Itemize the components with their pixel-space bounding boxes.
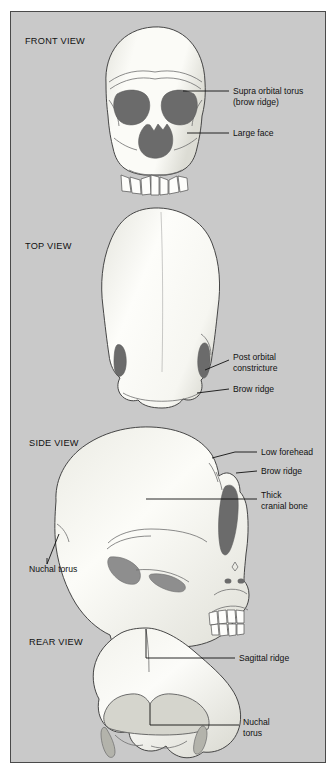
right-post-orbital-constricture	[198, 343, 210, 378]
view-rear: REAR VIEW Sagittal ridge Nuchal torus	[29, 628, 289, 758]
nuchal-torus-band	[104, 694, 209, 735]
label-supra-orbital-torus-line2: (brow ridge)	[233, 97, 279, 107]
label-nuchal-torus-rear-line2: torus	[243, 728, 262, 738]
label-post-orbital-constricture-line1: Post orbital	[233, 352, 276, 362]
top-skull-drawing	[102, 208, 220, 408]
nasal-aperture	[139, 124, 173, 158]
label-low-forehead: Low forehead	[261, 447, 313, 457]
front-skull-drawing	[106, 27, 205, 195]
label-sagittal-ridge: Sagittal ridge	[239, 653, 289, 663]
left-eye-socket	[114, 90, 150, 125]
view-title-side: SIDE VIEW	[29, 438, 79, 448]
label-nuchal-torus-rear-line1: Nuchal	[243, 717, 270, 727]
label-brow-ridge-top: Brow ridge	[233, 384, 274, 394]
view-title-front: FRONT VIEW	[25, 36, 85, 46]
side-teeth	[209, 610, 244, 636]
view-front: FRONT VIEW Supra orbital torus (brow rid…	[25, 27, 303, 195]
infraorbital-foramen-1	[225, 578, 232, 583]
label-nuchal-torus-side: Nuchal torus	[29, 564, 77, 574]
label-large-face: Large face	[233, 128, 274, 138]
rear-skull-drawing	[93, 628, 240, 758]
leader-low-forehead	[212, 452, 257, 458]
view-side: SIDE VIEW Low forehead Brow ridge Thick …	[29, 427, 313, 663]
right-eye-socket	[161, 90, 197, 125]
infraorbital-foramen-2	[238, 578, 245, 583]
view-title-rear: REAR VIEW	[29, 637, 83, 647]
label-brow-ridge-side: Brow ridge	[261, 466, 302, 476]
front-teeth	[121, 175, 188, 195]
leader-brow-ridge-side	[236, 471, 257, 473]
label-thick-cranial-bone-line1: Thick	[261, 490, 282, 500]
label-supra-orbital-torus-line1: Supra orbital torus	[233, 86, 303, 96]
illustration-panel: FRONT VIEW Supra orbital torus (brow rid…	[10, 11, 326, 763]
occipital-shadow-left	[101, 727, 115, 757]
label-post-orbital-constricture-line2: constricture	[233, 363, 278, 373]
view-title-top: TOP VIEW	[25, 241, 72, 251]
view-top: TOP VIEW Post orbital constricture Brow …	[25, 208, 278, 408]
label-thick-cranial-bone-line2: cranial bone	[261, 501, 308, 511]
side-skull-drawing	[55, 427, 249, 663]
